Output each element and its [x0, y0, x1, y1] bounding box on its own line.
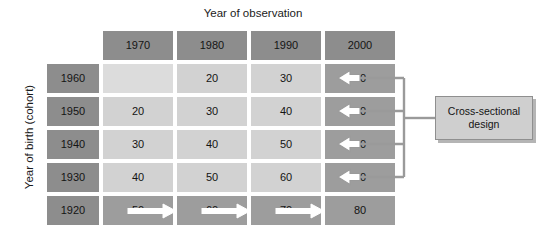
- cross-sectional-design-callout: Cross-sectional design: [435, 96, 533, 140]
- callout-line-1: Cross-sectional: [448, 105, 520, 117]
- cohort-diagram: Year of observation Year of birth (cohor…: [0, 0, 546, 235]
- connector-bracket: [360, 78, 435, 177]
- cross-sectional-arrowheads: [338, 71, 360, 185]
- callout-line-2: design: [469, 118, 500, 130]
